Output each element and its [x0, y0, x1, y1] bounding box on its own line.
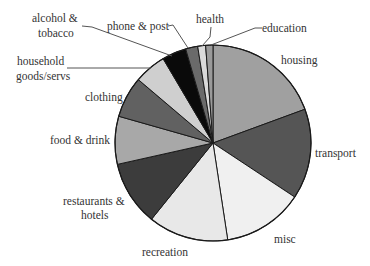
label-household-line2: goods/servs [16, 70, 71, 83]
label-household-line1: household [17, 55, 65, 67]
label-food: food & drink [50, 134, 110, 146]
label-transport: transport [315, 147, 357, 160]
label-alcohol-line2: tobacco [38, 27, 74, 39]
label-clothing: clothing [85, 91, 123, 104]
label-recreation: recreation [142, 246, 188, 258]
label-restaurants-line2: hotels [81, 209, 109, 221]
label-restaurants-line1: restaurants & [63, 195, 125, 207]
pie-chart: alcohol & tobacco phone & post health ed… [0, 0, 370, 266]
label-phone: phone & post [107, 20, 170, 33]
label-alcohol-line1: alcohol & [32, 12, 78, 24]
label-housing: housing [281, 54, 318, 67]
label-health: health [196, 13, 224, 25]
leader-line-education [211, 28, 262, 45]
leader-line-health [202, 27, 211, 46]
leader-line-phone [168, 25, 188, 48]
label-misc: misc [274, 233, 296, 245]
label-education: education [262, 22, 307, 34]
pie-slices [115, 45, 311, 241]
